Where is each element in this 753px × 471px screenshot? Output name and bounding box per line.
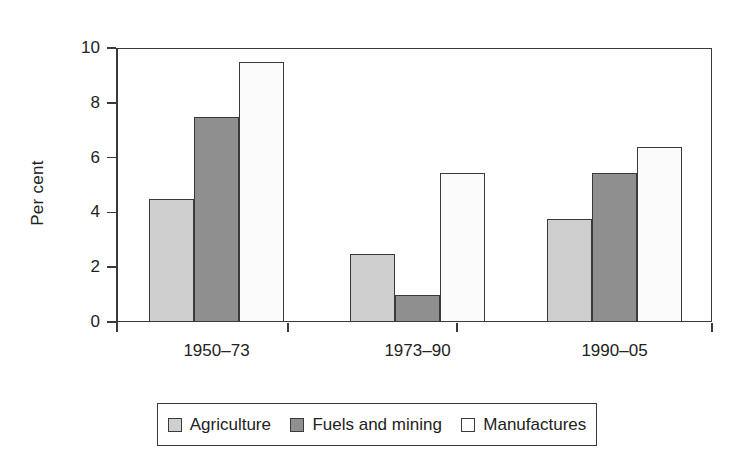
x-axis-category-label: 1950–73 bbox=[183, 341, 249, 361]
legend-swatch-icon-fuels-and-mining bbox=[290, 418, 304, 432]
bar-1950-73-agriculture bbox=[149, 199, 194, 322]
y-axis-tick-label: 6 bbox=[54, 148, 100, 168]
y-axis-tick bbox=[107, 266, 116, 268]
legend-label-agriculture: Agriculture bbox=[190, 415, 271, 435]
y-axis-tick bbox=[107, 321, 116, 323]
x-axis-tick bbox=[287, 323, 289, 332]
bar-chart-figure: Per cent 0246810 1950–731973–901990–05 A… bbox=[0, 0, 753, 471]
y-axis-tick-labels: 0246810 bbox=[54, 0, 100, 471]
chart-legend: Agriculture Fuels and mining Manufacture… bbox=[157, 403, 597, 446]
y-axis-tick-label: 2 bbox=[54, 257, 100, 277]
x-axis-category-label: 1973–90 bbox=[384, 341, 450, 361]
legend-item-fuels-and-mining: Fuels and mining bbox=[290, 415, 441, 435]
legend-swatch-icon-manufactures bbox=[461, 418, 475, 432]
y-axis-title: Per cent bbox=[28, 128, 48, 258]
y-axis-tick-label: 8 bbox=[54, 93, 100, 113]
bar-1973-90-manufactures bbox=[440, 173, 485, 322]
legend-label-fuels-and-mining: Fuels and mining bbox=[312, 415, 441, 435]
bar-1990-05-agriculture bbox=[547, 219, 592, 322]
legend-item-manufactures: Manufactures bbox=[461, 415, 586, 435]
y-axis-tick bbox=[107, 102, 116, 104]
x-axis-category-label: 1990–05 bbox=[581, 341, 647, 361]
legend-label-manufactures: Manufactures bbox=[483, 415, 586, 435]
bar-1973-90-fuels-and-mining bbox=[395, 295, 440, 322]
legend-swatch-icon-agriculture bbox=[168, 418, 182, 432]
x-axis-tick bbox=[456, 323, 458, 332]
y-axis-tick-label: 10 bbox=[54, 38, 100, 58]
y-axis-tick bbox=[107, 47, 116, 49]
bar-1950-73-fuels-and-mining bbox=[194, 117, 239, 323]
bar-1990-05-manufactures bbox=[637, 147, 682, 322]
y-axis-tick-label: 4 bbox=[54, 202, 100, 222]
bar-1990-05-fuels-and-mining bbox=[592, 173, 637, 322]
x-axis-tick bbox=[116, 323, 118, 332]
x-axis-tick bbox=[711, 323, 713, 332]
y-axis-tick bbox=[107, 157, 116, 159]
bar-1973-90-agriculture bbox=[350, 254, 395, 323]
bar-1950-73-manufactures bbox=[239, 62, 284, 322]
y-axis-tick bbox=[107, 212, 116, 214]
y-axis-tick-label: 0 bbox=[54, 312, 100, 332]
legend-item-agriculture: Agriculture bbox=[168, 415, 271, 435]
